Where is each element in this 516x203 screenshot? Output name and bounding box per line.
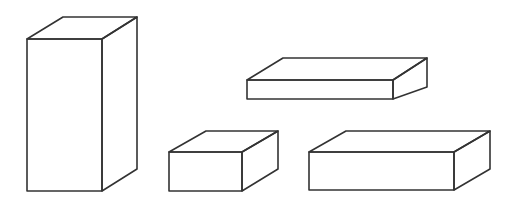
- wide-box-top-face: [309, 131, 490, 152]
- flat-slab-front-face: [247, 80, 393, 99]
- small-box-side-face: [242, 131, 278, 191]
- flat-slab-top-face: [247, 58, 427, 80]
- small-box-top-face: [169, 131, 278, 152]
- tall-prism-front-face: [27, 39, 102, 191]
- small-box-front-face: [169, 152, 242, 191]
- prisms-diagram: [0, 0, 516, 203]
- shape-flat-slab: [247, 58, 427, 99]
- wide-box-side-face: [454, 131, 490, 190]
- shape-small-box: [169, 131, 278, 191]
- flat-slab-side-face: [393, 58, 427, 99]
- shape-tall-prism: [27, 17, 137, 191]
- tall-prism-side-face: [102, 17, 137, 191]
- wide-box-front-face: [309, 152, 454, 190]
- shape-wide-box: [309, 131, 490, 190]
